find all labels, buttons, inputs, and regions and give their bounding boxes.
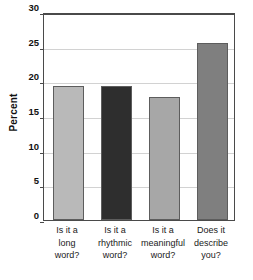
bar-3 [149, 97, 180, 220]
x-label-line: describe [183, 237, 239, 250]
x-label-4: Does itdescribeyou? [183, 224, 239, 262]
y-tickmark-0 [40, 222, 44, 223]
y-tick-label-10: 10 [28, 142, 39, 152]
y-axis-tick-labels: 051015202530 [24, 8, 41, 222]
bar-chart: Percent 051015202530 Is it alongword?Is … [0, 0, 253, 280]
bar-1 [53, 86, 84, 221]
bars-layer [44, 14, 234, 220]
x-label-line: you? [183, 249, 239, 262]
y-tick-label-30: 30 [28, 3, 39, 13]
y-tick-label-25: 25 [28, 38, 39, 48]
y-axis-title: Percent [2, 0, 24, 224]
y-tick-label-15: 15 [28, 107, 39, 117]
x-label-line: Does it [183, 224, 239, 237]
y-axis-title-text: Percent [8, 93, 19, 131]
y-tick-label-20: 20 [28, 73, 39, 83]
bar-2 [101, 86, 132, 221]
y-tick-label-0: 0 [34, 211, 39, 221]
bar-4 [197, 43, 228, 220]
plot-area [43, 13, 235, 221]
x-axis-category-labels: Is it alongword?Is it arhythmicword?Is i… [43, 224, 235, 278]
y-tick-label-5: 5 [34, 177, 39, 187]
